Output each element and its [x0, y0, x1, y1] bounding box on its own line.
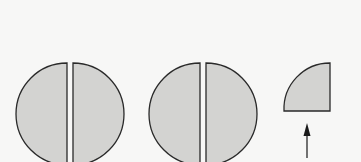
fractions-diagram — [0, 0, 361, 162]
whole-circle-2 — [149, 63, 257, 162]
quarter-circle — [284, 63, 330, 111]
circle-2-right-half — [206, 63, 257, 162]
up-arrow-icon — [304, 123, 311, 158]
circle-1-right-half — [73, 63, 124, 162]
circle-1-left-half — [16, 63, 67, 162]
circle-2-left-half — [149, 63, 200, 162]
whole-circle-1 — [16, 63, 124, 162]
